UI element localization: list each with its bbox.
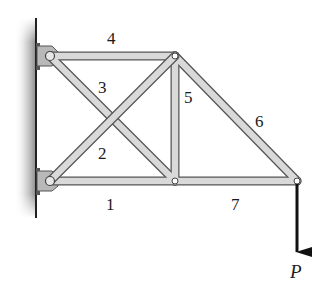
pin-top-left [46, 52, 55, 61]
pin-top-middle [172, 53, 178, 59]
pin-bottom-middle [172, 178, 178, 184]
wall-shading-fade [14, 18, 36, 218]
label-member-4: 4 [107, 29, 116, 48]
label-member-2: 2 [98, 144, 107, 163]
label-member-5: 5 [184, 88, 193, 107]
pin-bottom-left [46, 177, 55, 186]
truss-diagram: 4 3 2 5 6 1 7 P [0, 0, 316, 291]
label-member-1: 1 [106, 195, 115, 214]
wall-support [14, 18, 36, 218]
label-member-6: 6 [255, 112, 264, 131]
label-member-7: 7 [231, 195, 240, 214]
member-6 [175, 56, 297, 181]
label-load-p: P [289, 261, 302, 282]
label-member-3: 3 [98, 78, 107, 97]
pin-right-tip [294, 178, 300, 184]
